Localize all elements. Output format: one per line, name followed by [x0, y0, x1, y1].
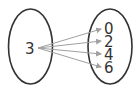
domain-value: 3: [25, 40, 35, 58]
arrow-3-to-0: [38, 29, 101, 48]
mapping-diagram: 3 0 2 4 6: [0, 0, 138, 90]
arrows: [38, 29, 101, 67]
codomain-value: 6: [104, 59, 114, 77]
arrow-3-to-2: [38, 41, 101, 48]
